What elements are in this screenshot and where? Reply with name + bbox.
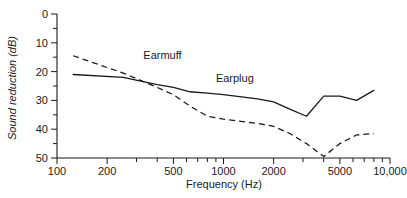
x-axis-tick-labels: 10020050010002000500010,000 — [48, 165, 407, 177]
y-axis-minor-ticks — [53, 28, 57, 143]
y-axis-tick-labels: 01020304050 — [36, 8, 48, 164]
x-tick-label: 5000 — [328, 165, 352, 177]
x-tick-label: 10,000 — [373, 165, 407, 177]
x-tick-label: 2000 — [261, 165, 285, 177]
x-tick-label: 500 — [164, 165, 182, 177]
x-tick-label: 100 — [48, 165, 66, 177]
x-tick-label: 1000 — [211, 165, 235, 177]
y-tick-label: 30 — [36, 94, 48, 106]
series-label-earplug: Earplug — [216, 72, 254, 84]
x-axis-title: Frequency (Hz) — [186, 178, 262, 190]
chart-figure: 01020304050 10020050010002000500010,000 … — [0, 0, 407, 198]
x-tick-label: 200 — [98, 165, 116, 177]
y-tick-label: 50 — [36, 152, 48, 164]
y-tick-label: 10 — [36, 37, 48, 49]
y-axis-title: Sound reduction (dB) — [6, 36, 18, 140]
x-axis-major-ticks — [57, 158, 390, 164]
y-tick-label: 20 — [36, 66, 48, 78]
sound-reduction-line-chart: 01020304050 10020050010002000500010,000 … — [0, 0, 407, 198]
series-label-earmuff: Earmuff — [143, 49, 182, 61]
y-tick-label: 40 — [36, 123, 48, 135]
y-tick-label: 0 — [42, 8, 48, 20]
